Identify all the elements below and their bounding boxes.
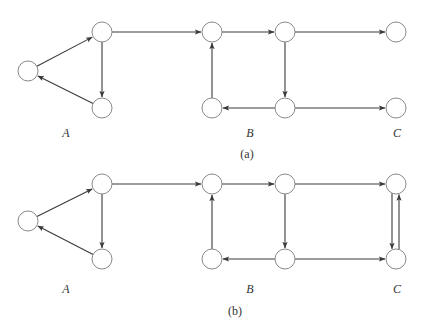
node-B2: [202, 98, 222, 118]
group-label-b: B: [246, 282, 254, 296]
group-label-c: C: [393, 126, 402, 140]
edges-a: [37, 32, 385, 108]
edge-A0-to-A1: [37, 37, 92, 66]
edge-A2-to-A0: [38, 226, 93, 254]
node-C0: [386, 174, 406, 194]
panel-b: ABC (b): [18, 174, 406, 318]
edge-A2-to-A0: [38, 76, 93, 104]
node-B3: [275, 98, 295, 118]
node-C1: [386, 249, 406, 269]
node-A1: [92, 174, 112, 194]
edge-A0-to-A1: [37, 189, 92, 217]
node-B1: [275, 174, 295, 194]
node-C1: [386, 98, 406, 118]
node-A2: [92, 249, 112, 269]
edges-b: [37, 184, 399, 259]
panel-a: ABC (a): [18, 22, 406, 161]
group-label-a: A: [61, 282, 70, 296]
node-A0: [18, 211, 38, 231]
group-label-a: A: [61, 126, 70, 140]
node-C0: [386, 22, 406, 42]
node-B1: [275, 22, 295, 42]
caption-a: (a): [240, 147, 253, 161]
node-A2: [92, 98, 112, 118]
node-B2: [202, 249, 222, 269]
node-B0: [202, 174, 222, 194]
group-label-c: C: [393, 282, 402, 296]
directed-graph-diagram: ABC (a) ABC (b): [0, 0, 423, 326]
node-B0: [202, 22, 222, 42]
node-A1: [92, 22, 112, 42]
group-labels-a: ABC: [61, 126, 402, 140]
group-labels-b: ABC: [61, 282, 402, 296]
caption-b: (b): [228, 304, 242, 318]
group-label-b: B: [246, 126, 254, 140]
node-A0: [18, 61, 38, 81]
node-B3: [275, 249, 295, 269]
